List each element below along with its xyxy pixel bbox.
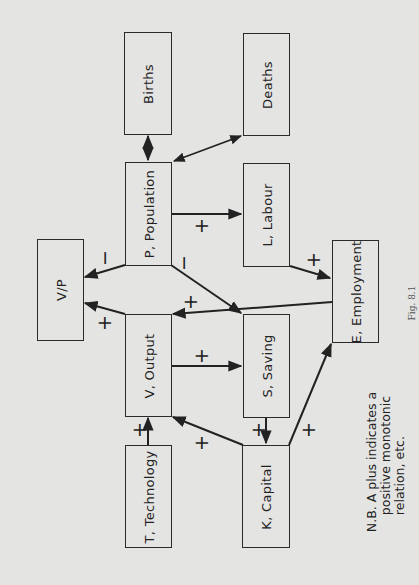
figure-label: Fig. 8.1 bbox=[407, 286, 417, 321]
node-employment: E, Employment bbox=[332, 240, 379, 343]
edge-output-vp bbox=[85, 303, 125, 314]
sign-population-vp: − bbox=[95, 250, 114, 266]
node-saving-label: S, Saving bbox=[259, 334, 274, 397]
sign-output-saving: + bbox=[192, 348, 211, 364]
node-employment-label: E, Employment bbox=[348, 240, 363, 343]
edge-population-vp bbox=[85, 265, 125, 277]
node-births-label: Births bbox=[141, 64, 156, 104]
node-deaths-label: Deaths bbox=[259, 61, 274, 109]
node-vp: V/P bbox=[37, 239, 84, 341]
edge-deaths-population bbox=[174, 136, 241, 161]
sign-saving-capital: + bbox=[249, 422, 268, 438]
sign-technology-output: + bbox=[130, 422, 149, 438]
footnote-line-2: positive monotonic bbox=[379, 392, 393, 532]
node-population-label: P, Population bbox=[141, 170, 156, 258]
footnote-line-3: relation, etc. bbox=[393, 392, 407, 532]
node-population: P, Population bbox=[125, 162, 172, 266]
node-capital-label: K, Capital bbox=[259, 464, 274, 529]
footnote: N.B. A plus indicates a positive monoton… bbox=[365, 392, 407, 532]
node-output: V, Output bbox=[125, 314, 172, 417]
node-deaths: Deaths bbox=[243, 33, 290, 136]
sign-output-vp: + bbox=[95, 315, 114, 331]
node-output-label: V, Output bbox=[141, 333, 156, 398]
sign-population-labour: + bbox=[192, 218, 211, 234]
sign-employment-output: + bbox=[181, 294, 200, 310]
node-labour-label: L, Labour bbox=[259, 183, 274, 246]
node-technology: T, Technology bbox=[125, 445, 172, 548]
sign-capital-employment: + bbox=[299, 422, 318, 438]
node-births: Births bbox=[124, 32, 172, 135]
sign-population-saving: − bbox=[174, 255, 193, 271]
node-technology-label: T, Technology bbox=[141, 450, 156, 543]
sign-capital-output: + bbox=[192, 435, 211, 451]
footnote-line-1: N.B. A plus indicates a bbox=[365, 392, 379, 532]
node-capital: K, Capital bbox=[242, 445, 290, 548]
node-vp-label: V/P bbox=[53, 279, 68, 301]
node-saving: S, Saving bbox=[243, 314, 290, 418]
node-labour: L, Labour bbox=[243, 163, 290, 267]
sign-labour-employment: + bbox=[304, 252, 323, 268]
